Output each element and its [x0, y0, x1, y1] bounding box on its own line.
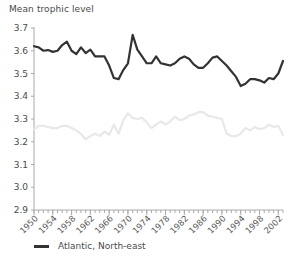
- line-chart-plot: 2.93.03.13.23.33.43.53.63.71950195419581…: [0, 0, 295, 259]
- x-axis-tick-label: 1958: [55, 213, 77, 235]
- data-series-line: [34, 112, 283, 139]
- legend-item-label: Atlantic, North-east: [58, 241, 146, 251]
- y-axis-tick-label: 3.6: [14, 46, 29, 56]
- y-axis-tick-label: 2.9: [14, 205, 29, 215]
- legend-line-swatch: [34, 245, 49, 248]
- x-axis-tick-label: 1950: [18, 213, 40, 235]
- y-axis-tick-label: 3.3: [14, 114, 28, 124]
- x-axis-tick-label: 1982: [168, 213, 190, 235]
- chart-legend: Atlantic, North-east: [34, 241, 146, 251]
- y-axis-tick-label: 3.4: [14, 91, 29, 101]
- x-axis-tick-label: 1994: [224, 213, 246, 235]
- y-axis-tick-label: 3.5: [14, 69, 28, 79]
- x-axis-tick-label: 1966: [93, 213, 115, 235]
- x-axis-tick-label: 1978: [149, 213, 171, 235]
- x-axis-tick-label: 1970: [112, 213, 134, 235]
- y-axis-tick-label: 3.7: [14, 23, 28, 33]
- x-axis-tick-label: 1954: [36, 213, 58, 235]
- y-axis-tick-label: 3.1: [14, 160, 28, 170]
- x-axis-tick-label: 1990: [205, 213, 227, 235]
- x-axis-tick-label: 1998: [243, 213, 265, 235]
- x-axis-tick-label: 1974: [130, 213, 152, 235]
- data-series-line: [34, 35, 283, 86]
- y-axis-tick-label: 3.0: [14, 182, 29, 192]
- x-axis-tick-label: 2002: [262, 213, 284, 235]
- x-axis-tick-label: 1962: [74, 213, 96, 235]
- chart-container: Mean trophic level 2.93.03.13.23.33.43.5…: [0, 0, 295, 259]
- x-axis-tick-label: 1986: [187, 213, 209, 235]
- y-axis-tick-label: 3.2: [14, 137, 28, 147]
